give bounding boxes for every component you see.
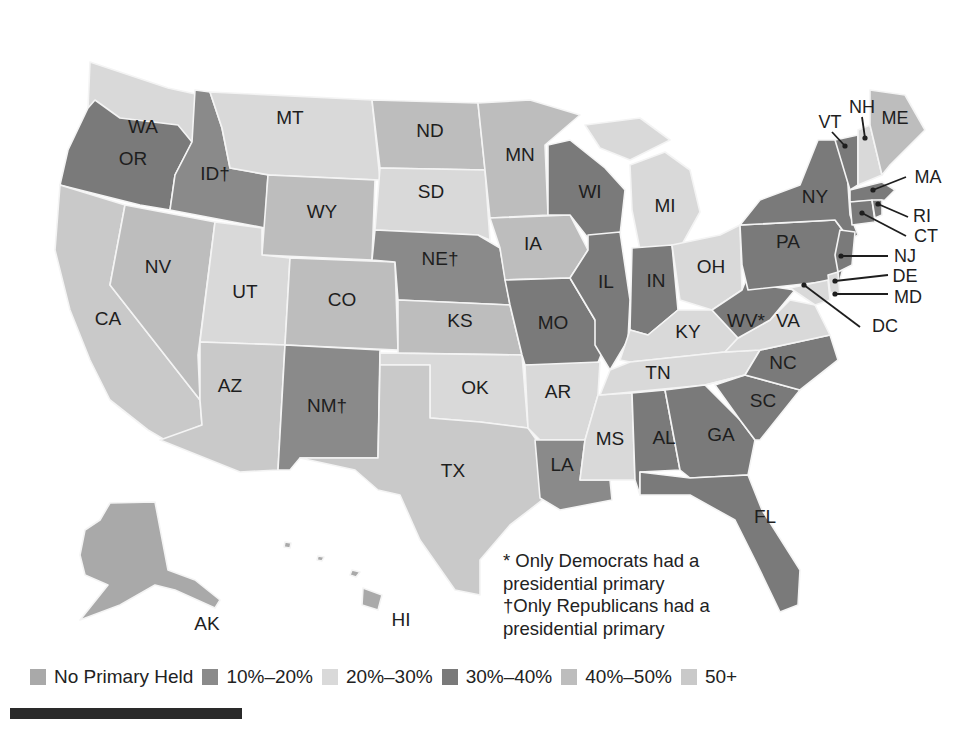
leader-de [835,275,888,281]
label-vt: VT [818,112,841,132]
label-nd: ND [416,120,443,141]
footnote-line-1: * Only Democrats had a [503,550,710,573]
label-nh: NH [849,97,875,117]
label-ar: AR [545,381,571,402]
label-wa: WA [128,116,158,137]
legend-label: 10%–20% [226,666,313,688]
legend-label: 20%–30% [346,666,433,688]
legend-item-20-30: 20%–30% [322,666,433,688]
label-ma: MA [915,167,942,187]
label-nc: NC [769,352,796,373]
footnote-line-4: presidential primary [503,618,710,641]
legend-swatch [202,669,218,685]
footnotes: * Only Democrats had a presidential prim… [503,550,710,640]
state-hi-kauai [284,542,291,548]
label-sd: SD [418,181,444,202]
footnote-line-3: †Only Republicans had a [503,595,710,618]
legend-label: 50+ [705,666,737,688]
legend-swatch [442,669,458,685]
label-dc: DC [872,316,898,336]
state-nj [835,230,855,272]
label-mo: MO [538,312,569,333]
label-mn: MN [505,144,535,165]
label-me: ME [882,108,909,128]
state-mt [210,92,380,180]
marker-nj [838,253,843,258]
label-ny: NY [802,186,829,207]
label-fl: FL [754,506,776,527]
label-il: IL [598,271,614,292]
marker-ma [870,187,875,192]
label-nm: NM† [307,395,347,416]
label-wi: WI [578,181,601,202]
state-mi-up [585,118,670,160]
label-ne: NE† [422,248,459,269]
footnote-line-2: presidential primary [503,573,710,596]
label-tx: TX [441,460,466,481]
label-de: DE [892,266,917,286]
label-ks: KS [447,310,472,331]
marker-md [832,291,837,296]
label-nj: NJ [894,246,916,266]
label-md: MD [894,287,922,307]
legend-item-30-40: 30%–40% [442,666,553,688]
label-ky: KY [675,321,701,342]
legend-item-no-primary: No Primary Held [30,666,193,688]
label-al: AL [652,427,675,448]
label-mi: MI [654,195,675,216]
label-wy: WY [307,201,338,222]
label-oh: OH [697,256,726,277]
label-ca: CA [95,308,122,329]
label-ri: RI [913,206,931,226]
label-tn: TN [645,362,670,383]
label-az: AZ [218,375,243,396]
label-mt: MT [276,107,304,128]
marker-nh [862,135,867,140]
legend-swatch [30,669,46,685]
leader-ct [862,213,906,236]
marker-vt [842,143,847,148]
decorative-bar [10,708,242,719]
state-hi-oahu [317,556,324,561]
label-ak: AK [194,613,220,634]
us-map: WA OR CA ID† NV MT WY UT AZ CO NM† ND SD… [0,0,979,729]
legend: No Primary Held 10%–20% 20%–30% 30%–40% … [30,666,746,688]
legend-swatch [561,669,577,685]
label-ok: OK [461,377,489,398]
label-hi: HI [392,609,411,630]
marker-ri [875,201,880,206]
legend-item-50-plus: 50+ [681,666,737,688]
label-va: VA [776,310,800,331]
label-sc: SC [750,390,776,411]
label-co: CO [328,289,357,310]
state-me [870,90,925,175]
label-or: OR [119,148,148,169]
state-hi-maui [350,570,360,577]
label-ut: UT [232,281,258,302]
marker-de [832,278,837,283]
legend-swatch [322,669,338,685]
legend-label: 40%–50% [585,666,672,688]
legend-swatch [681,669,697,685]
label-la: LA [550,454,574,475]
legend-label: No Primary Held [54,666,193,688]
label-ms: MS [596,428,625,449]
legend-item-10-20: 10%–20% [202,666,313,688]
legend-label: 30%–40% [466,666,553,688]
state-hi-big [362,588,382,610]
state-sd [375,168,490,240]
label-wv: WV* [727,310,766,331]
label-id: ID† [200,163,230,184]
label-in: IN [647,270,666,291]
marker-ct [859,210,864,215]
label-ia: IA [524,233,542,254]
label-ga: GA [707,424,735,445]
label-nv: NV [145,256,172,277]
marker-dc [801,282,806,287]
label-ct: CT [914,226,938,246]
legend-item-40-50: 40%–50% [561,666,672,688]
state-ak [80,502,220,620]
label-pa: PA [776,231,800,252]
